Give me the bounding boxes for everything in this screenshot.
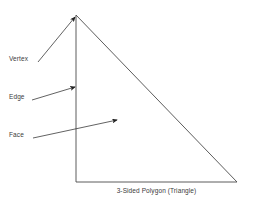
figure-caption: 3-Sided Polygon (Triangle) [76,186,237,195]
vertex-leader-arrow [38,17,75,62]
face-leader-arrow [33,120,117,138]
annotation-label-edge: Edge [9,93,25,101]
annotation-label-vertex: Vertex [9,55,28,63]
edge-leader-arrow [32,87,75,100]
polygon-diagram: Vertex Edge Face 3-Sided Polygon (Triang… [0,0,253,203]
annotation-label-face: Face [9,131,24,139]
diagram-canvas [0,0,253,203]
triangle-shape [76,15,237,182]
